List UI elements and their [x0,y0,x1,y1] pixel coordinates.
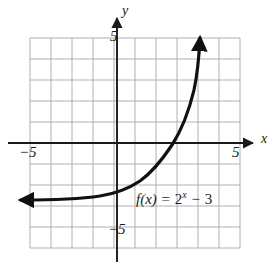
function-curve [21,38,200,200]
x-tick-label-negative-5: −5 [19,145,37,160]
equation-operator: − [187,191,205,207]
function-equation-label: f(x) = 2x − 3 [136,192,212,207]
y-tick-label-negative-5: −5 [108,222,126,237]
equation-argument: (x) [140,191,157,207]
y-tick-label-positive-5: 5 [110,29,118,44]
exponential-function-graph-figure: y x 5 −5 −5 5 f(x) = 2x − 3 [0,0,276,267]
x-tick-label-positive-5: 5 [232,145,240,160]
equation-constant: 3 [205,191,213,207]
y-axis-label: y [122,4,128,18]
equation-equals: = [157,191,175,207]
x-axis-label: x [261,132,267,146]
graph-canvas [0,0,276,267]
